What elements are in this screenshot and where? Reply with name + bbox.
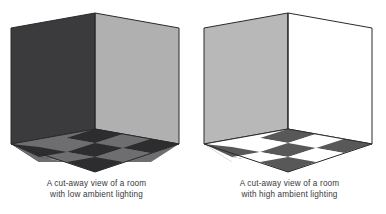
caption-low-line-1: A cut-away view of a room bbox=[0, 179, 193, 190]
ambient-lighting-figure-pair: A cut-away view of a room with low ambie… bbox=[0, 0, 386, 214]
left-wall-low bbox=[11, 13, 95, 144]
room-figure-high-ambient: A cut-away view of a room with high ambi… bbox=[193, 0, 386, 214]
right-wall-low bbox=[95, 13, 179, 144]
caption-low-ambient: A cut-away view of a room with low ambie… bbox=[0, 179, 193, 200]
right-wall-high bbox=[288, 13, 372, 144]
cutaway-room-diagram-low bbox=[0, 0, 193, 179]
caption-high-line-2: with high ambient lighting bbox=[193, 190, 386, 201]
cutaway-room-diagram-high bbox=[193, 0, 386, 179]
caption-high-ambient: A cut-away view of a room with high ambi… bbox=[193, 179, 386, 200]
left-wall-high bbox=[204, 13, 288, 144]
caption-low-line-2: with low ambient lighting bbox=[0, 190, 193, 201]
caption-high-line-1: A cut-away view of a room bbox=[193, 179, 386, 190]
room-figure-low-ambient: A cut-away view of a room with low ambie… bbox=[0, 0, 193, 214]
